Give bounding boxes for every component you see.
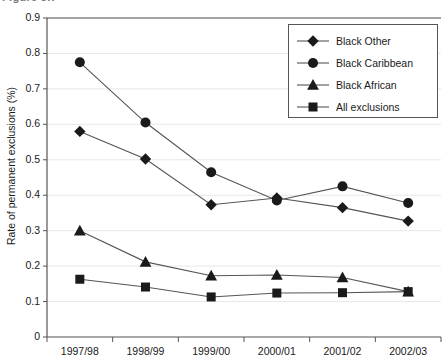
data-point-all-exclusions bbox=[272, 289, 281, 298]
data-point-black-caribbean bbox=[141, 118, 151, 128]
data-point-black-other bbox=[337, 202, 348, 213]
y-tick-label: 0.5 bbox=[0, 153, 40, 165]
y-tick-label: 0.9 bbox=[0, 11, 40, 23]
series-line-black-other bbox=[80, 131, 408, 221]
y-tick-label: 0.1 bbox=[0, 295, 40, 307]
data-point-all-exclusions bbox=[207, 292, 216, 301]
x-tick-label: 1999/00 bbox=[178, 345, 244, 357]
triangle-marker bbox=[296, 77, 330, 93]
data-point-black-african bbox=[271, 269, 283, 280]
data-point-black-african bbox=[140, 256, 152, 267]
data-point-black-other bbox=[140, 153, 151, 164]
x-tick-label: 2000/01 bbox=[244, 345, 310, 357]
data-point-black-other bbox=[74, 126, 85, 137]
data-point-black-african bbox=[74, 225, 86, 236]
legend-label: All exclusions bbox=[336, 101, 400, 113]
y-tick-label: 0.6 bbox=[0, 117, 40, 129]
x-tick-label: 2001/02 bbox=[310, 345, 376, 357]
y-tick-label: 0.4 bbox=[0, 188, 40, 200]
chart-figure: Figure 3.7 Rate of permanent exclusions … bbox=[0, 0, 448, 363]
legend-item-black-caribbean[interactable]: Black Caribbean bbox=[296, 55, 413, 71]
x-tick-label: 1997/98 bbox=[47, 345, 113, 357]
legend-item-all-exclusions[interactable]: All exclusions bbox=[296, 99, 400, 115]
data-point-all-exclusions bbox=[338, 288, 347, 297]
data-point-black-caribbean bbox=[272, 196, 282, 206]
legend-item-black-african[interactable]: Black African bbox=[296, 77, 397, 93]
y-tick-label: 0.2 bbox=[0, 259, 40, 271]
legend-item-black-other[interactable]: Black Other bbox=[296, 33, 391, 49]
legend-label: Black African bbox=[336, 79, 397, 91]
series-line-black-african bbox=[80, 231, 408, 292]
data-point-all-exclusions bbox=[75, 275, 84, 284]
series-line-all-exclusions bbox=[80, 279, 408, 297]
y-tick-label: 0 bbox=[0, 330, 40, 342]
data-point-all-exclusions bbox=[404, 287, 413, 296]
data-point-black-other bbox=[205, 199, 216, 210]
data-point-all-exclusions bbox=[141, 283, 150, 292]
legend-label: Black Caribbean bbox=[336, 57, 413, 69]
data-point-black-caribbean bbox=[206, 167, 216, 177]
x-tick-label: 1998/99 bbox=[113, 345, 179, 357]
data-point-black-caribbean bbox=[338, 181, 348, 191]
y-tick-label: 0.7 bbox=[0, 82, 40, 94]
data-point-black-other bbox=[402, 215, 413, 226]
y-tick-label: 0.8 bbox=[0, 46, 40, 58]
diamond-marker bbox=[296, 33, 330, 49]
data-point-black-caribbean bbox=[403, 198, 413, 208]
x-tick-label: 2002/03 bbox=[375, 345, 441, 357]
legend-label: Black Other bbox=[336, 35, 391, 47]
circle-marker bbox=[296, 55, 330, 71]
data-point-black-caribbean bbox=[75, 57, 85, 67]
square-marker bbox=[296, 99, 330, 115]
y-tick-label: 0.3 bbox=[0, 224, 40, 236]
